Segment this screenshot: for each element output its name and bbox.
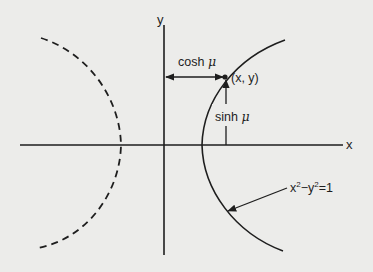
point-xy <box>222 74 227 79</box>
hyperbola-left-branch <box>38 38 121 248</box>
hyperbola-diagram: y x cosh μ (x, y) sinh μ x2−y2=1 <box>0 0 373 272</box>
point-label: (x, y) <box>231 71 259 85</box>
y-axis-label: y <box>157 12 164 27</box>
cosh-label: cosh μ <box>178 54 216 69</box>
x-axis-label: x <box>346 137 353 152</box>
curve-equation-label: x2−y2=1 <box>290 180 333 195</box>
curve-label-arrow <box>228 188 287 211</box>
sinh-label: sinh μ <box>215 109 250 124</box>
